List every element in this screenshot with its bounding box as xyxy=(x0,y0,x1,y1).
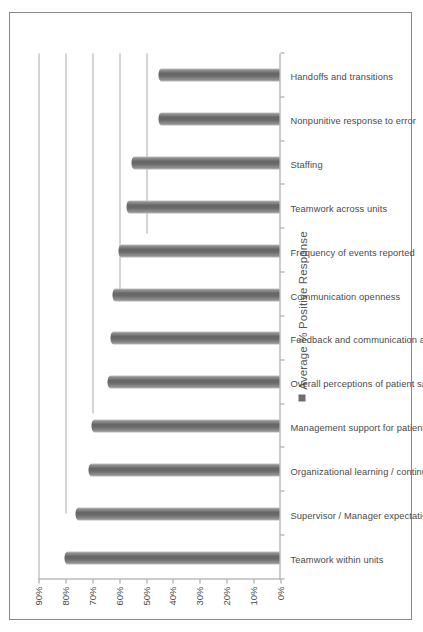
value-tick-60% xyxy=(119,579,120,583)
value-tick-label: 0% xyxy=(275,586,286,619)
category-tick xyxy=(280,271,284,272)
category-label: Management support for patient safety xyxy=(290,422,423,432)
category-label: Handoffs and transitions xyxy=(290,71,393,81)
category-tick xyxy=(280,447,284,448)
category-label: Feedback and communication about error xyxy=(290,334,423,344)
bar xyxy=(112,288,279,301)
value-tick-label: 10% xyxy=(248,586,259,619)
category-tick xyxy=(280,578,284,579)
bar xyxy=(126,200,279,213)
category-label: Supervisor / Manager expectations and ac… xyxy=(290,510,423,520)
chart-frame: Average % Positive Response 0%10%20%30%4… xyxy=(9,12,412,620)
category-tick xyxy=(280,184,284,185)
gridline-90 xyxy=(38,53,39,579)
category-label: Teamwork across units xyxy=(290,203,387,213)
category-label: Communication openness xyxy=(290,291,400,301)
value-tick-label: 80% xyxy=(59,586,70,619)
plot-area: 0%10%20%30%40%50%60%70%80%90% Teamwork w… xyxy=(38,53,280,579)
category-tick xyxy=(280,403,284,404)
gridline-70 xyxy=(92,53,93,413)
value-tick-label: 40% xyxy=(167,586,178,619)
category-label: Teamwork within units xyxy=(290,554,383,564)
category-tick xyxy=(280,96,284,97)
category-tick xyxy=(280,227,284,228)
chart-legend: Average % Positive Response xyxy=(296,13,308,619)
bar xyxy=(158,68,279,81)
value-tick-0% xyxy=(280,579,281,583)
value-tick-label: 20% xyxy=(221,586,232,619)
value-tick-label: 30% xyxy=(194,586,205,619)
category-tick xyxy=(280,490,284,491)
value-tick-40% xyxy=(172,579,173,583)
bar xyxy=(118,244,279,257)
gridline-80 xyxy=(65,53,66,513)
value-tick-80% xyxy=(65,579,66,583)
value-tick-label: 50% xyxy=(140,586,151,619)
category-label: Staffing xyxy=(290,159,322,169)
value-axis-line xyxy=(38,578,280,579)
gridline-60 xyxy=(119,53,120,301)
category-label: Organizational learning / continuous imp… xyxy=(290,466,423,476)
value-tick-50% xyxy=(146,579,147,583)
bar xyxy=(131,156,279,169)
bar xyxy=(107,375,279,388)
bar xyxy=(158,112,279,125)
category-tick xyxy=(280,359,284,360)
bar xyxy=(88,463,279,476)
legend-swatch-icon xyxy=(298,394,305,401)
bar xyxy=(91,419,279,432)
bar xyxy=(64,551,279,564)
bar xyxy=(110,331,279,344)
category-tick xyxy=(280,52,284,53)
value-tick-70% xyxy=(92,579,93,583)
category-tick xyxy=(280,315,284,316)
chart-canvas: Average % Positive Response 0%10%20%30%4… xyxy=(10,13,411,619)
category-tick xyxy=(280,140,284,141)
value-tick-20% xyxy=(226,579,227,583)
value-tick-90% xyxy=(38,579,39,583)
value-tick-10% xyxy=(253,579,254,583)
category-label: Overall perceptions of patient safety xyxy=(290,378,423,388)
category-label: Nonpunitive response to error xyxy=(290,115,415,125)
category-tick xyxy=(280,534,284,535)
value-tick-label: 90% xyxy=(33,586,44,619)
value-tick-30% xyxy=(199,579,200,583)
bar xyxy=(75,507,279,520)
value-tick-label: 60% xyxy=(113,586,124,619)
value-tick-label: 70% xyxy=(86,586,97,619)
category-label: Frequency of events reported xyxy=(290,247,414,257)
